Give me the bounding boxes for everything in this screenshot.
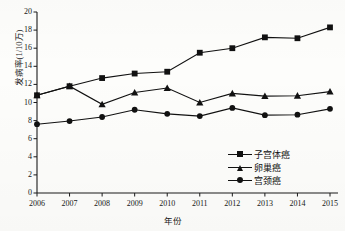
series-line-1 bbox=[37, 86, 330, 104]
x-tick-label: 2013 bbox=[248, 200, 282, 208]
data-point bbox=[327, 24, 333, 30]
y-tick-label: 10 bbox=[14, 99, 32, 107]
legend-item-0: 子宫体癌 bbox=[228, 148, 320, 161]
legend-item-2: 宫颈癌 bbox=[228, 174, 320, 187]
x-tick-label: 2012 bbox=[215, 200, 249, 208]
data-point bbox=[132, 107, 138, 113]
legend-marker-triangle-icon bbox=[228, 161, 252, 174]
data-point bbox=[326, 88, 333, 95]
y-tick-label: 14 bbox=[14, 62, 32, 70]
legend: 子宫体癌 卵巢癌 宫颈癌 bbox=[228, 148, 320, 187]
data-point bbox=[327, 106, 333, 112]
x-tick-label: 2015 bbox=[313, 200, 345, 208]
x-tick-label: 2007 bbox=[53, 200, 87, 208]
data-point bbox=[229, 45, 235, 51]
y-tick-label: 20 bbox=[14, 8, 32, 16]
data-point bbox=[197, 50, 203, 56]
plot-area bbox=[0, 0, 345, 231]
legend-marker-circle-icon bbox=[228, 174, 252, 187]
x-axis-label: 年份 bbox=[0, 214, 345, 226]
data-point bbox=[164, 84, 171, 91]
data-point bbox=[99, 75, 105, 81]
data-point bbox=[34, 121, 40, 127]
data-point bbox=[164, 69, 170, 75]
y-tick-label: 4 bbox=[14, 153, 32, 161]
data-point bbox=[295, 35, 301, 41]
series-line-2 bbox=[37, 108, 330, 124]
data-point bbox=[262, 112, 268, 118]
x-tick-label: 2011 bbox=[183, 200, 217, 208]
data-point bbox=[67, 118, 73, 124]
x-tick-label: 2010 bbox=[150, 200, 184, 208]
y-tick-label: 16 bbox=[14, 44, 32, 52]
y-tick-label: 12 bbox=[14, 80, 32, 88]
x-tick-label: 2014 bbox=[280, 200, 314, 208]
y-tick-label: 2 bbox=[14, 171, 32, 179]
chart-figure: 发病率(1/10万) 年份 02468101214161820 20062007… bbox=[0, 0, 345, 231]
y-tick-label: 18 bbox=[14, 26, 32, 34]
data-point bbox=[262, 34, 268, 40]
legend-marker-square-icon bbox=[228, 148, 252, 161]
y-tick-label: 8 bbox=[14, 117, 32, 125]
series-line-0 bbox=[37, 27, 330, 95]
legend-label-0: 子宫体癌 bbox=[252, 148, 290, 161]
data-point bbox=[295, 112, 301, 118]
y-tick-label: 0 bbox=[14, 189, 32, 197]
data-point bbox=[99, 114, 105, 120]
x-tick-label: 2006 bbox=[20, 200, 54, 208]
x-tick-label: 2009 bbox=[118, 200, 152, 208]
legend-label-1: 卵巢癌 bbox=[252, 161, 281, 174]
legend-label-2: 宫颈癌 bbox=[252, 174, 281, 187]
data-point bbox=[164, 111, 170, 117]
data-point bbox=[132, 71, 138, 77]
data-point bbox=[229, 105, 235, 111]
x-tick-label: 2008 bbox=[85, 200, 119, 208]
y-tick-label: 6 bbox=[14, 135, 32, 143]
data-point bbox=[197, 113, 203, 119]
legend-item-1: 卵巢癌 bbox=[228, 161, 320, 174]
